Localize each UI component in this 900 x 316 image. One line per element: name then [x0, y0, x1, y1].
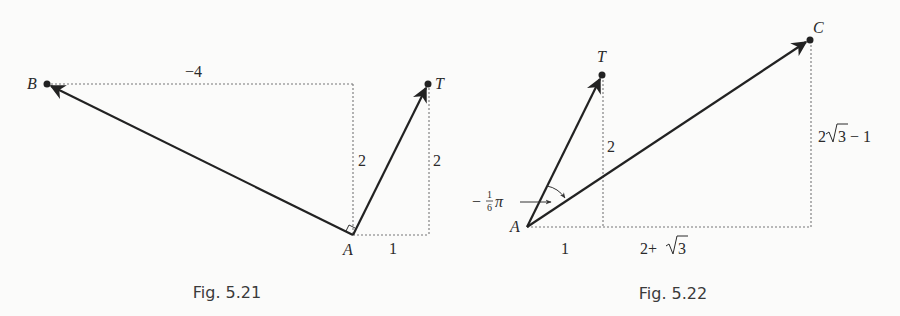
label-A: A — [509, 218, 520, 235]
dim-right-vertical: 2 3 − 1 — [818, 124, 871, 145]
point-B — [44, 81, 51, 88]
angle-numerator: 1 — [487, 189, 492, 200]
dim-bottom-right-radicand: 3 — [678, 240, 686, 257]
dim-bottom-right-prefix: 2+ — [640, 240, 657, 257]
angle-sign: − — [472, 193, 481, 210]
dim-right-vertical-suffix: − 1 — [846, 128, 871, 145]
label-T: T — [597, 48, 607, 65]
point-C — [807, 37, 814, 44]
label-B: B — [27, 75, 37, 92]
point-T — [425, 81, 432, 88]
diagram-canvas: B T A −4 2 2 1 Fig. 5.21 T C A − 1 — [0, 0, 900, 316]
point-T — [599, 72, 606, 79]
figure-5-22: T C A − 1 6 π 2 1 2+ 3 2 3 − 1 Fig. 5.22 — [472, 19, 871, 303]
dim-left-vertical: 2 — [358, 152, 366, 169]
dim-right-vertical-radicand: 3 — [838, 128, 846, 145]
dim-bottom-horizontal: 1 — [389, 240, 397, 257]
dim-right-vertical-prefix: 2 — [818, 128, 826, 145]
figure-5-21: B T A −4 2 2 1 Fig. 5.21 — [27, 63, 445, 302]
vector-AC — [527, 42, 806, 227]
dim-right-vertical: 2 — [433, 152, 441, 169]
vector-AT — [527, 79, 600, 227]
dim-bottom-right: 2+ 3 — [640, 236, 688, 257]
figure-caption: Fig. 5.21 — [193, 283, 261, 302]
dim-bottom-left: 1 — [561, 240, 569, 257]
vector-AB — [51, 86, 353, 235]
label-T: T — [435, 75, 445, 92]
label-C: C — [813, 19, 824, 36]
right-angle-marker — [346, 225, 355, 231]
angle-denominator: 6 — [487, 202, 492, 213]
dim-mid-vertical: 2 — [607, 138, 615, 155]
angle-arc — [547, 186, 565, 198]
angle-pi: π — [495, 193, 504, 210]
angle-label: − 1 6 π — [472, 189, 504, 213]
label-A: A — [342, 241, 353, 258]
dim-top-horizontal: −4 — [185, 63, 202, 80]
figure-caption: Fig. 5.22 — [639, 284, 707, 303]
